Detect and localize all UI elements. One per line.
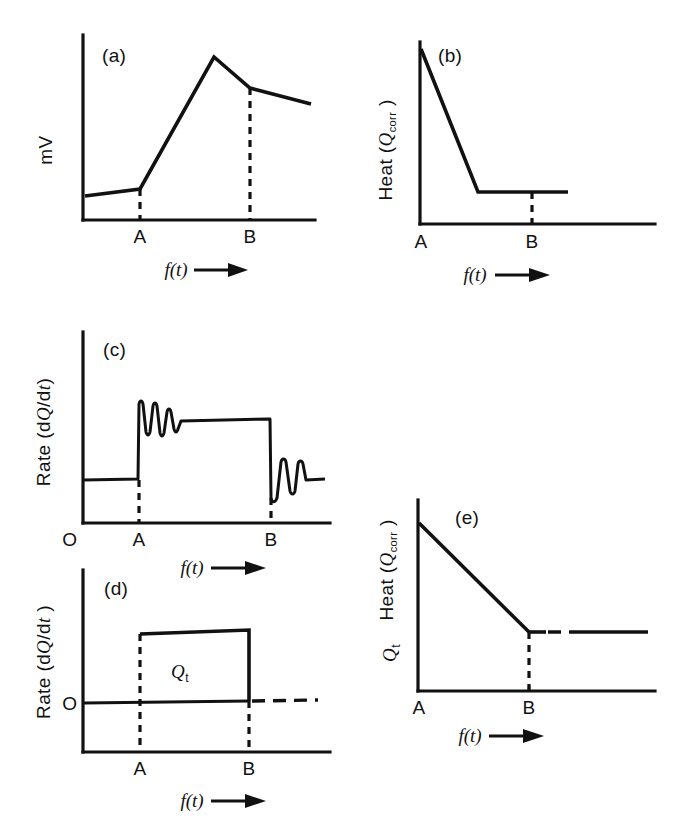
panel-c-y-label-group: Rate (dQ/dt)	[33, 378, 54, 486]
panel-e-tick-a: A	[412, 697, 425, 718]
panel-c-origin-label: O	[62, 529, 77, 550]
figure-svg: (a) mV A B f(t) (b) Heat (Qcorr ) A B f(…	[0, 0, 682, 822]
panel-b-y-label-group: Heat (Qcorr )	[375, 99, 398, 200]
panel-e-y-label-secondary: Qt	[379, 644, 403, 662]
panel-d-x-label: f(t)	[180, 790, 203, 812]
panel-b-tick-b: B	[525, 231, 538, 252]
panel-c-curve	[84, 401, 325, 502]
panel-b-curve	[421, 49, 568, 192]
panel-e-tag: (e)	[455, 507, 479, 528]
panel-d-baseline	[84, 701, 249, 703]
panel-a-curve	[85, 57, 311, 196]
panel-a-tag: (a)	[102, 45, 126, 66]
panel-d-tick-a: A	[133, 758, 146, 779]
panel-b: (b) Heat (Qcorr ) A B f(t)	[375, 42, 655, 286]
panel-d-y-label: Rate (dQ/dt )	[33, 605, 54, 719]
panel-a-arrow-icon	[194, 263, 248, 277]
panel-d-tag: (d)	[104, 578, 128, 599]
panel-d-pulse	[140, 630, 249, 701]
figure-container: (a) mV A B f(t) (b) Heat (Qcorr ) A B f(…	[0, 0, 682, 822]
panel-b-y-label: Heat (Qcorr )	[375, 99, 398, 200]
panel-a: (a) mV A B f(t)	[35, 35, 315, 281]
panel-e-tick-b: B	[522, 697, 535, 718]
panel-b-x-label: f(t)	[463, 264, 486, 286]
panel-c-arrow-icon	[211, 561, 266, 575]
panel-a-x-label: f(t)	[164, 259, 187, 281]
panel-e: (e) Heat (Qcorr ) Qt A B f(t)	[376, 500, 655, 747]
panel-c-tag: (c)	[103, 339, 126, 360]
panel-a-tick-a: A	[133, 226, 146, 247]
panel-e-y-label: Heat (Qcorr )	[376, 519, 399, 620]
panel-a-y-label: mV	[35, 135, 56, 164]
panel-b-tag: (b)	[438, 45, 462, 66]
panel-e-x-label: f(t)	[458, 725, 481, 747]
panel-e-y-label-group: Heat (Qcorr )	[376, 519, 399, 620]
panel-e-arrow-icon	[489, 729, 544, 743]
panel-d-y-label-group: Rate (dQ/dt )	[33, 605, 54, 719]
panel-c: (c) Rate (dQ/dt) O A B f(t)	[33, 332, 330, 579]
panel-d-baseline-dashed	[252, 700, 318, 701]
panel-c-y-label: Rate (dQ/dt)	[33, 378, 54, 486]
panel-c-x-label: f(t)	[180, 557, 203, 579]
panel-d-origin-label: O	[62, 693, 77, 714]
panel-e-y-label2-group: Qt	[379, 644, 403, 662]
panel-a-tick-b: B	[243, 226, 256, 247]
panel-d-area-label: Qt	[171, 661, 189, 685]
panel-c-tick-a: A	[132, 529, 145, 550]
panel-d-arrow-icon	[211, 794, 266, 808]
panel-e-decline	[419, 523, 529, 632]
panel-d-tick-b: B	[242, 758, 255, 779]
panel-b-tick-a: A	[414, 231, 427, 252]
panel-d: (d) Rate (dQ/dt ) O Qt A B f(t)	[33, 570, 330, 812]
panel-c-tick-b: B	[264, 529, 277, 550]
panel-b-arrow-icon	[495, 268, 550, 282]
